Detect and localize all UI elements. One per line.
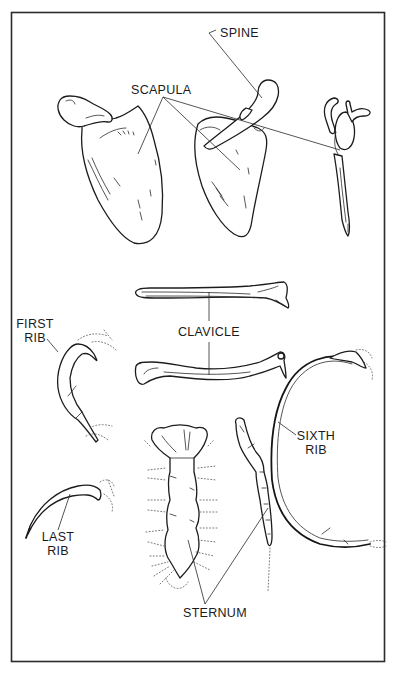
label-last-rib-line1: LAST bbox=[42, 530, 74, 544]
label-spine: SPINE bbox=[220, 26, 259, 40]
scapula-view-2 bbox=[195, 80, 279, 237]
clavicle-view-1 bbox=[136, 282, 289, 308]
label-scapula: SCAPULA bbox=[131, 83, 191, 97]
scapula-view-1 bbox=[58, 96, 163, 244]
label-clavicle: CLAVICLE bbox=[178, 325, 240, 339]
label-first-rib: FIRST RIB bbox=[15, 317, 55, 345]
label-last-rib: LAST RIB bbox=[40, 530, 76, 558]
label-sixth-rib: SIXTH RIB bbox=[295, 429, 337, 457]
scapula-view-3 bbox=[324, 98, 370, 236]
clavicle-view-2 bbox=[135, 352, 286, 384]
label-first-rib-line1: FIRST bbox=[16, 317, 54, 331]
sternum-view-1 bbox=[144, 425, 218, 588]
label-sixth-rib-line1: SIXTH bbox=[297, 429, 335, 443]
label-sternum: STERNUM bbox=[183, 606, 247, 620]
label-last-rib-line2: RIB bbox=[47, 544, 69, 558]
label-sixth-rib-line2: RIB bbox=[305, 443, 327, 457]
anatomy-figure: SPINE SCAPULA CLAVICLE FIRST RIB SIXTH R… bbox=[0, 0, 395, 676]
sternum-view-2 bbox=[236, 418, 272, 592]
label-first-rib-line2: RIB bbox=[24, 331, 46, 345]
first-rib bbox=[58, 330, 116, 442]
